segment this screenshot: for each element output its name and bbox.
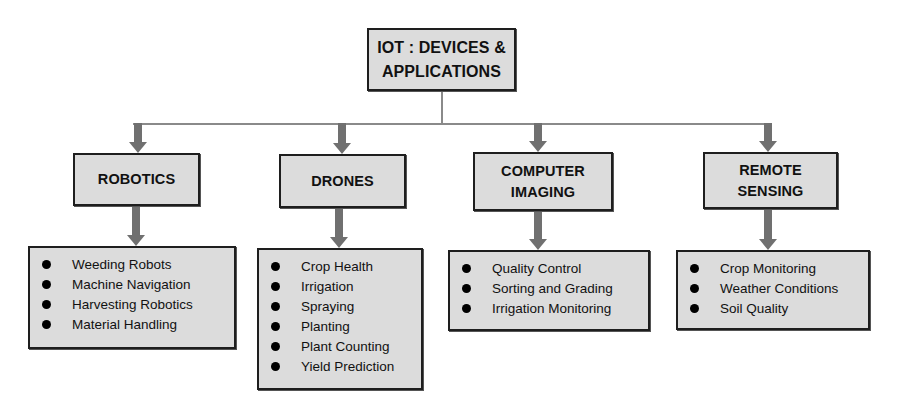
list-item: Crop Health — [259, 257, 421, 277]
list-item: Spraying — [259, 297, 421, 317]
list-item: Planting — [259, 317, 421, 337]
bullet-icon — [271, 302, 280, 311]
list-item: Quality Control — [450, 259, 648, 279]
arrow-down-icon — [529, 123, 547, 153]
category-title: DRONES — [311, 171, 374, 192]
list-item: Material Handling — [30, 315, 234, 335]
list-item: Weeding Robots — [30, 255, 234, 275]
bullet-icon — [42, 300, 51, 309]
arrow-down-icon — [333, 123, 351, 155]
bullet-icon — [271, 342, 280, 351]
list-item: Sorting and Grading — [450, 279, 648, 299]
category-title-line2: SENSING — [738, 181, 804, 202]
bullet-icon — [690, 264, 699, 273]
arrow-down-icon — [759, 123, 777, 153]
bullet-icon — [690, 284, 699, 293]
list-item: Harvesting Robotics — [30, 295, 234, 315]
bullet-icon — [42, 260, 51, 269]
category-title-line2: IMAGING — [501, 182, 585, 203]
list-item: Plant Counting — [259, 337, 421, 357]
category-title-line1: COMPUTER — [501, 161, 585, 182]
bullet-icon — [42, 320, 51, 329]
list-item: Irrigation Monitoring — [450, 299, 648, 319]
root-title-line1: IOT : DEVICES & — [377, 36, 506, 60]
arrow-down-icon — [759, 209, 777, 251]
remote-sensing-applications-list: Crop Monitoring Weather Conditions Soil … — [676, 250, 870, 330]
arrow-down-icon — [529, 210, 547, 251]
category-computer-imaging: COMPUTER IMAGING — [473, 152, 613, 211]
category-remote-sensing: REMOTE SENSING — [703, 152, 838, 209]
drones-applications-list: Crop Health Irrigation Spraying Planting… — [257, 248, 423, 390]
bullet-icon — [42, 280, 51, 289]
bullet-icon — [690, 304, 699, 313]
category-drones: DRONES — [279, 154, 406, 208]
bullet-icon — [271, 282, 280, 291]
bullet-icon — [271, 322, 280, 331]
bullet-icon — [462, 264, 471, 273]
computer-imaging-applications-list: Quality Control Sorting and Grading Irri… — [448, 250, 650, 331]
list-item: Weather Conditions — [678, 279, 868, 299]
horizontal-connector-line — [133, 123, 771, 125]
bullet-icon — [462, 284, 471, 293]
category-robotics: ROBOTICS — [73, 153, 200, 206]
list-item: Yield Prediction — [259, 357, 421, 377]
arrow-down-icon — [129, 123, 147, 154]
root-node: IOT : DEVICES & APPLICATIONS — [367, 28, 516, 91]
category-title-line1: REMOTE — [738, 160, 804, 181]
bullet-icon — [462, 304, 471, 313]
root-stem-line — [441, 90, 443, 124]
category-title: ROBOTICS — [98, 169, 175, 190]
list-item: Crop Monitoring — [678, 259, 868, 279]
robotics-applications-list: Weeding Robots Machine Navigation Harves… — [28, 246, 236, 349]
list-item: Machine Navigation — [30, 275, 234, 295]
arrow-down-icon — [330, 208, 348, 249]
root-title-line2: APPLICATIONS — [377, 60, 506, 84]
list-item: Soil Quality — [678, 299, 868, 319]
list-item: Irrigation — [259, 277, 421, 297]
bullet-icon — [271, 362, 280, 371]
arrow-down-icon — [127, 206, 145, 247]
bullet-icon — [271, 262, 280, 271]
